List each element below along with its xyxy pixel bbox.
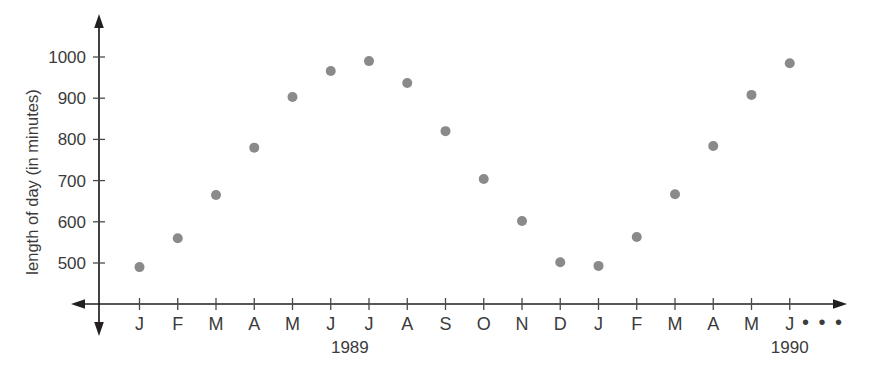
data-point [288,92,298,102]
x-axis-tick-label: D [554,314,567,334]
x-axis-tick-label: J [326,314,335,334]
x-axis-tick-label: F [631,314,642,334]
data-point [135,262,145,272]
x-axis-tick-label: J [135,314,144,334]
axes-group [71,14,847,336]
x-axis-year-label: 1989 [331,338,369,357]
data-point [785,58,795,68]
y-axis-tick-label: 900 [58,89,86,108]
y-axis-tick-label: 500 [58,254,86,273]
x-axis-right-arrow-icon [833,299,847,309]
data-point [326,66,336,76]
data-points-group [135,56,795,272]
x-axis-tick-label: J [785,314,794,334]
x-axis-tick-label: M [209,314,224,334]
x-axis-continuation-label: • • • [802,311,844,333]
data-point [708,141,718,151]
x-axis-tick-label: A [707,314,719,334]
data-point [479,174,489,184]
x-axis-tick-label: F [172,314,183,334]
y-axis-top-arrow-icon [94,14,104,28]
y-axis-tick-label: 800 [58,130,86,149]
data-point [555,257,565,267]
data-point [670,189,680,199]
x-axis-tick-label: A [248,314,260,334]
y-axis-ticks-group: 5006007008009001000 [48,48,105,273]
x-axis-tick-label: A [401,314,413,334]
chart-canvas: 5006007008009001000 JFMAMJJASONDJFMAMJ 1… [0,0,881,371]
data-point [747,90,757,100]
y-axis-tick-label: 1000 [48,48,86,67]
x-axis-left-arrow-icon [71,299,85,309]
x-axis-tick-label: S [439,314,451,334]
x-axis-tick-label: J [594,314,603,334]
y-axis-tick-label: 700 [58,172,86,191]
x-axis-tick-label: N [516,314,529,334]
x-axis-tick-label: O [477,314,491,334]
y-axis-title: length of day (in minutes) [23,89,41,274]
x-axis-tick-label: M [285,314,300,334]
data-point [364,56,374,66]
x-axis-tick-label: M [744,314,759,334]
data-point [249,143,259,153]
y-axis-tick-label: 600 [58,213,86,232]
x-axis-tick-label: J [365,314,374,334]
data-point [211,190,221,200]
data-point [441,126,451,136]
data-point [402,78,412,88]
data-point [173,233,183,243]
day-length-scatter-chart: 5006007008009001000 JFMAMJJASONDJFMAMJ 1… [0,0,881,371]
data-point [632,232,642,242]
year-labels-group: 19891990 [331,338,809,357]
data-point [517,216,527,226]
x-axis-year-label: 1990 [771,338,809,357]
data-point [594,261,604,271]
x-axis-tick-label: M [668,314,683,334]
y-axis-bottom-arrow-icon [94,322,104,336]
